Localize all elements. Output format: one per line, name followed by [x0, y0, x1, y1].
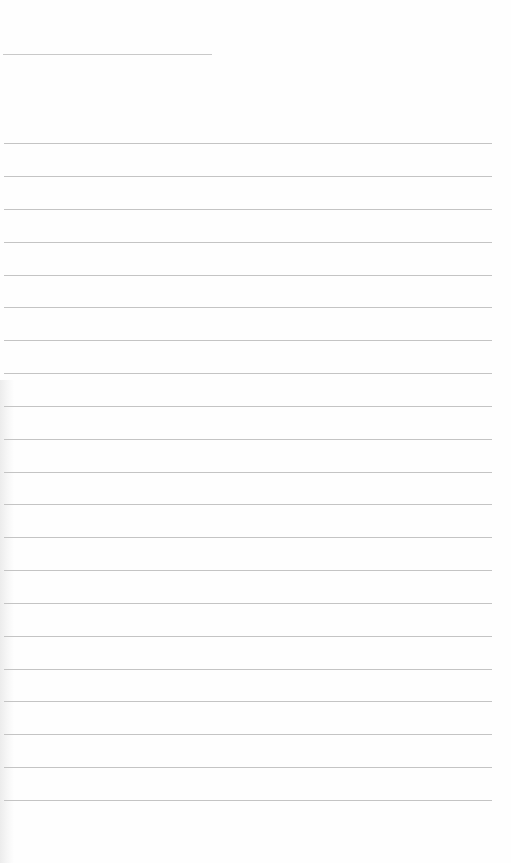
ruled-line	[4, 373, 492, 374]
ruled-line	[4, 537, 492, 538]
ruled-line	[4, 472, 492, 473]
ruled-line	[4, 307, 492, 308]
ruled-line	[4, 439, 492, 440]
ruled-line	[4, 701, 492, 702]
ruled-line	[4, 603, 492, 604]
ruled-line	[4, 800, 492, 801]
ruled-line	[4, 767, 492, 768]
ruled-line	[4, 636, 492, 637]
ruled-line	[4, 143, 492, 144]
ruled-line	[4, 669, 492, 670]
ruled-line	[4, 570, 492, 571]
ruled-line	[4, 242, 492, 243]
ruled-line	[4, 504, 492, 505]
ruled-line	[4, 209, 492, 210]
notebook-page	[0, 0, 511, 863]
ruled-line	[4, 275, 492, 276]
ruled-line	[4, 176, 492, 177]
header-line	[3, 54, 212, 55]
ruled-line	[4, 406, 492, 407]
binding-edge-shadow	[0, 380, 14, 863]
ruled-line	[4, 340, 492, 341]
ruled-line	[4, 734, 492, 735]
